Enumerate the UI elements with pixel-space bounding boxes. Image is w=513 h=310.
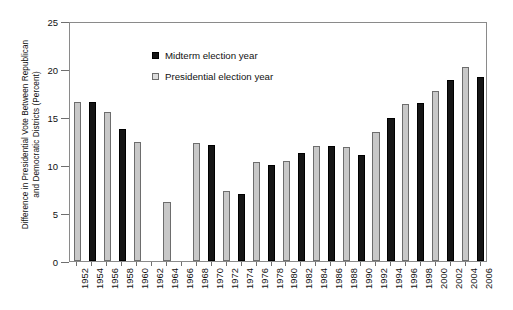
bar-midterm-1986 — [328, 146, 335, 261]
x-axis-tick-label-1954: 1954 — [95, 268, 105, 289]
x-axis-tick — [330, 262, 331, 266]
y-axis-tick — [61, 262, 69, 263]
bar-presidential-1992 — [372, 132, 379, 261]
x-axis-tick-label-1992: 1992 — [379, 268, 389, 289]
x-axis-tick-label-1986: 1986 — [334, 268, 344, 289]
bar-presidential-1960 — [134, 142, 141, 261]
x-axis-tick — [420, 262, 421, 266]
x-axis-tick-label-1996: 1996 — [409, 268, 419, 289]
x-axis-tick-label-2000: 2000 — [439, 268, 449, 289]
x-axis-tick — [285, 262, 286, 266]
x-axis-tick — [76, 262, 77, 266]
x-axis-tick-label-1968: 1968 — [200, 268, 210, 289]
y-axis-tick — [61, 70, 69, 71]
plot-area — [69, 22, 487, 262]
y-axis-title: Difference in Presidential Vote Between … — [12, 0, 52, 268]
x-axis-tick-label-1976: 1976 — [260, 268, 270, 289]
x-axis-tick — [226, 262, 227, 266]
bar-presidential-1968 — [193, 143, 200, 261]
x-axis-tick-label-1956: 1956 — [110, 268, 120, 289]
x-axis-tick-label-1974: 1974 — [245, 268, 255, 289]
x-axis-tick-label-1970: 1970 — [215, 268, 225, 289]
x-axis-tick — [91, 262, 92, 266]
x-axis-tick-label-1960: 1960 — [140, 268, 150, 289]
legend-label: Presidential election year — [165, 71, 273, 82]
x-axis-tick — [121, 262, 122, 266]
x-axis-tick-label-1972: 1972 — [230, 268, 240, 289]
x-axis-tick — [450, 262, 451, 266]
bar-midterm-1970 — [208, 145, 215, 261]
x-axis-tick — [211, 262, 212, 266]
x-axis-tick-label-1982: 1982 — [304, 268, 314, 289]
bar-presidential-2004 — [462, 67, 469, 261]
x-axis-tick — [375, 262, 376, 266]
bar-presidential-1952 — [74, 102, 81, 261]
x-axis-tick — [256, 262, 257, 266]
x-axis-tick-label-1952: 1952 — [80, 268, 90, 289]
y-axis-tick — [61, 166, 69, 167]
x-axis-tick-label-1958: 1958 — [125, 268, 135, 289]
y-axis-tick-label: 10 — [24, 161, 58, 172]
bar-midterm-1954 — [89, 102, 96, 261]
bar-presidential-1964 — [163, 202, 170, 261]
bar-midterm-1978 — [268, 165, 275, 261]
x-axis-tick-label-1962: 1962 — [155, 268, 165, 289]
x-axis-tick-label-1998: 1998 — [424, 268, 434, 289]
x-axis-tick-label-1990: 1990 — [364, 268, 374, 289]
x-axis-tick — [360, 262, 361, 266]
y-axis-tick — [61, 214, 69, 215]
x-axis-tick — [390, 262, 391, 266]
bar-midterm-1990 — [358, 155, 365, 261]
y-axis-tick-label: 15 — [24, 113, 58, 124]
x-axis-tick-label-1980: 1980 — [289, 268, 299, 289]
x-axis-tick-label-1966: 1966 — [185, 268, 195, 289]
x-axis-tick-label-1964: 1964 — [170, 268, 180, 289]
x-axis-tick — [136, 262, 137, 266]
legend-item-midterm: Midterm election year — [152, 50, 273, 61]
legend-swatch-midterm-icon — [152, 52, 159, 59]
x-axis-tick-label-1978: 1978 — [275, 268, 285, 289]
x-axis-tick — [480, 262, 481, 266]
legend-item-presidential: Presidential election year — [152, 71, 273, 82]
bar-midterm-1974 — [238, 194, 245, 261]
x-axis-tick — [196, 262, 197, 266]
bar-midterm-2006 — [477, 77, 484, 261]
bar-presidential-1984 — [313, 146, 320, 261]
bar-midterm-1998 — [417, 103, 424, 261]
legend-label: Midterm election year — [165, 50, 258, 61]
bar-presidential-2000 — [432, 91, 439, 261]
x-axis-tick — [315, 262, 316, 266]
y-axis-tick — [61, 22, 69, 23]
x-axis-tick — [106, 262, 107, 266]
x-axis-tick — [405, 262, 406, 266]
x-axis-tick-label-2002: 2002 — [454, 268, 464, 289]
bar-presidential-1956 — [104, 112, 111, 261]
x-axis-tick-label-1988: 1988 — [349, 268, 359, 289]
y-axis-tick-label: 20 — [24, 65, 58, 76]
bar-presidential-1996 — [402, 104, 409, 261]
x-axis-tick — [345, 262, 346, 266]
y-axis-tick — [61, 118, 69, 119]
bar-presidential-1988 — [343, 147, 350, 261]
bar-presidential-1976 — [253, 162, 260, 261]
x-axis-tick — [435, 262, 436, 266]
y-axis-tick-label: 25 — [24, 17, 58, 28]
x-axis-tick — [151, 262, 152, 266]
x-axis-tick — [465, 262, 466, 266]
x-axis-tick-label-2004: 2004 — [469, 268, 479, 289]
x-axis-tick — [181, 262, 182, 266]
x-axis-tick — [166, 262, 167, 266]
x-axis-tick — [241, 262, 242, 266]
x-axis-tick-label-2006: 2006 — [484, 268, 494, 289]
x-axis-tick-label-1994: 1994 — [394, 268, 404, 289]
legend-swatch-presidential-icon — [152, 73, 159, 80]
chart-legend: Midterm election yearPresidential electi… — [152, 50, 273, 92]
x-axis-tick — [271, 262, 272, 266]
chart-figure: Difference in Presidential Vote Between … — [0, 0, 513, 310]
y-axis-tick-label: 5 — [24, 209, 58, 220]
bar-presidential-1972 — [223, 191, 230, 261]
bar-midterm-1958 — [119, 129, 126, 261]
x-axis-tick-label-1984: 1984 — [319, 268, 329, 289]
bar-midterm-2002 — [447, 80, 454, 261]
x-axis-tick — [300, 262, 301, 266]
